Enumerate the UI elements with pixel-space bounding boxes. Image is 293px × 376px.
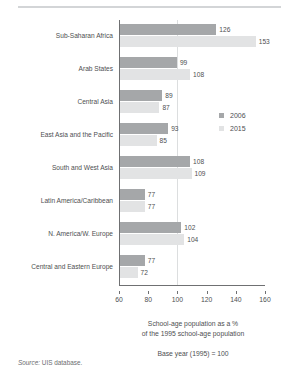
chart-figure: Sub-Saharan Africa126153Arab States99108… (0, 14, 293, 354)
legend-label: 2006 (230, 110, 246, 121)
bar-2015: 108 (120, 69, 190, 80)
base-year-note: Base year (1995) = 100 (113, 349, 273, 359)
source-label: Source: (18, 359, 40, 366)
bar-fill (120, 69, 190, 80)
bar-2006: 108 (120, 156, 190, 167)
bar-2015: 153 (120, 36, 256, 47)
bar-fill (120, 24, 216, 35)
bar-fill (120, 222, 181, 233)
bar-2006: 77 (120, 189, 145, 200)
bar-value-label: 102 (184, 223, 195, 232)
bar-value-label: 126 (219, 25, 230, 34)
legend-label: 2015 (230, 123, 246, 134)
bar-fill (120, 123, 168, 134)
bar-fill (120, 201, 145, 212)
legend-item[interactable]: 2015 (219, 123, 279, 136)
bar-fill (120, 135, 157, 146)
plot-area: Sub-Saharan Africa126153Arab States99108… (0, 14, 293, 291)
bar-value-label: 72 (141, 268, 148, 277)
x-tick-mark (119, 291, 120, 294)
bar-value-label: 153 (259, 37, 270, 46)
category-label: Central Asia (0, 97, 113, 106)
legend-item[interactable]: 2006 (219, 110, 279, 123)
bar-fill (120, 255, 145, 266)
bar-value-label: 109 (195, 169, 206, 178)
x-axis-title-line-1: School-age population as a % (113, 319, 273, 329)
bar-2015: 72 (120, 267, 138, 278)
bar-2015: 104 (120, 234, 184, 245)
legend-swatch-icon (219, 126, 224, 131)
x-tick-mark (148, 291, 149, 294)
x-tick-mark (236, 291, 237, 294)
x-tick-mark (207, 291, 208, 294)
bar-value-label: 77 (148, 202, 155, 211)
bar-fill (120, 267, 138, 278)
bar-fill (120, 57, 177, 68)
x-tick-mark (265, 291, 266, 294)
x-axis: 6080100120140160 (0, 291, 293, 307)
bar-value-label: 77 (148, 190, 155, 199)
bar-value-label: 108 (193, 157, 204, 166)
bar-value-label: 99 (180, 58, 187, 67)
x-tick-label: 120 (195, 295, 219, 304)
bar-group: Latin America/Caribbean7777 (0, 187, 293, 220)
bar-value-label: 77 (148, 256, 155, 265)
bar-value-label: 87 (162, 103, 169, 112)
category-label: East Asia and the Pacific (0, 130, 113, 139)
bar-2015: 87 (120, 102, 159, 113)
x-tick-label: 140 (224, 295, 248, 304)
bar-fill (120, 36, 256, 47)
top-divider-rule (18, 6, 281, 8)
bar-group: Arab States99108 (0, 55, 293, 88)
bar-2006: 77 (120, 255, 145, 266)
bar-value-label: 93 (171, 124, 178, 133)
chart-legend: 20062015 (219, 110, 279, 136)
bar-fill (120, 189, 145, 200)
bar-group: N. America/W. Europe102104 (0, 220, 293, 253)
x-tick-label: 160 (253, 295, 277, 304)
category-label: Arab States (0, 64, 113, 73)
category-label: Sub-Saharan Africa (0, 31, 113, 40)
bar-fill (120, 168, 192, 179)
category-label: Central and Eastern Europe (0, 262, 113, 271)
x-tick-label: 80 (136, 295, 160, 304)
bar-2015: 109 (120, 168, 192, 179)
bar-2015: 85 (120, 135, 157, 146)
bar-group: Central and Eastern Europe7772 (0, 253, 293, 286)
x-tick-label: 100 (165, 295, 189, 304)
x-tick-mark (177, 291, 178, 294)
category-label: Latin America/Caribbean (0, 196, 113, 205)
bar-fill (120, 102, 159, 113)
bar-fill (120, 156, 190, 167)
x-axis-title-line-2: of the 1995 school-age population (113, 329, 273, 339)
bar-2006: 93 (120, 123, 168, 134)
x-axis-title: School-age population as a % of the 1995… (113, 319, 273, 339)
legend-swatch-icon (219, 113, 224, 118)
category-label: South and West Asia (0, 163, 113, 172)
source-note: Source: UIS database. (18, 358, 82, 367)
category-label: N. America/W. Europe (0, 229, 113, 238)
bar-fill (120, 234, 184, 245)
bar-group: Sub-Saharan Africa126153 (0, 22, 293, 55)
bar-value-label: 104 (187, 235, 198, 244)
bar-value-label: 85 (160, 136, 167, 145)
bar-2015: 77 (120, 201, 145, 212)
bar-value-label: 108 (193, 70, 204, 79)
bar-group: South and West Asia108109 (0, 154, 293, 187)
bar-2006: 102 (120, 222, 181, 233)
bar-value-label: 89 (165, 91, 172, 100)
bar-2006: 126 (120, 24, 216, 35)
bar-fill (120, 90, 162, 101)
bar-2006: 89 (120, 90, 162, 101)
x-tick-label: 60 (107, 295, 131, 304)
source-value: UIS database. (40, 359, 82, 366)
bar-2006: 99 (120, 57, 177, 68)
